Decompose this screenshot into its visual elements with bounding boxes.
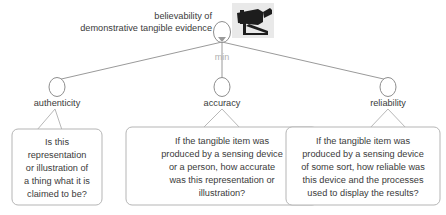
- question-bubble-authenticity[interactable]: Is this representation or illustration o…: [12, 109, 102, 205]
- authenticity-node-ellipse[interactable]: [49, 78, 65, 97]
- security-camera-icon: [232, 3, 274, 38]
- root-label-line2: demonstrative tangible evidence: [80, 23, 212, 33]
- believability-goal-tree: believability of demonstrative tangible …: [0, 0, 446, 215]
- authenticity-question-line-3: or illustration of: [26, 163, 89, 173]
- edge-root-reliability: [222, 42, 388, 80]
- accuracy-question-line-1: If the tangible item was: [175, 136, 269, 146]
- child-node-reliability[interactable]: [380, 78, 396, 97]
- authenticity-bubble-tail: [37, 109, 62, 130]
- accuracy-question-line-5: illustration?: [199, 188, 245, 198]
- authenticity-question-line-2: representation: [28, 150, 87, 160]
- authenticity-node-label: authenticity: [34, 98, 81, 108]
- authenticity-question-line-1: Is this: [45, 137, 69, 147]
- root-label-line1: believability of: [154, 11, 212, 21]
- accuracy-bubble-tail: [203, 109, 240, 128]
- reliability-question-line-4: this device and the processes: [302, 175, 423, 185]
- child-node-authenticity[interactable]: [49, 78, 65, 97]
- reliability-question-line-5: used to display the results?: [307, 188, 418, 198]
- child-node-accuracy[interactable]: [214, 78, 230, 97]
- reliability-node-ellipse[interactable]: [380, 78, 396, 97]
- reliability-node-label: reliability: [370, 98, 406, 108]
- reliability-question-line-2: produced by a sensing device: [302, 149, 424, 159]
- question-bubble-reliability[interactable]: If the tangible item was produced by a s…: [286, 109, 440, 205]
- authenticity-question-line-5: claimed to be?: [27, 189, 87, 199]
- accuracy-question-line-2: produced by a sensing device: [161, 149, 283, 159]
- reliability-bubble-tail: [370, 109, 406, 128]
- accuracy-question-line-4: was this representation or: [168, 175, 274, 185]
- accuracy-node-label: accuracy: [204, 98, 241, 108]
- reliability-question-line-3: of some sort, how reliable was: [301, 162, 425, 172]
- edge-root-authenticity: [57, 42, 222, 80]
- root-node[interactable]: [214, 22, 231, 43]
- accuracy-question-line-3: or a person, how accurate: [169, 162, 275, 172]
- authenticity-question-line-4: a thing what it is: [24, 176, 90, 186]
- reliability-question-line-1: If the tangible item was: [316, 136, 410, 146]
- aggregation-label-min: min: [215, 52, 230, 62]
- accuracy-node-ellipse[interactable]: [214, 78, 230, 97]
